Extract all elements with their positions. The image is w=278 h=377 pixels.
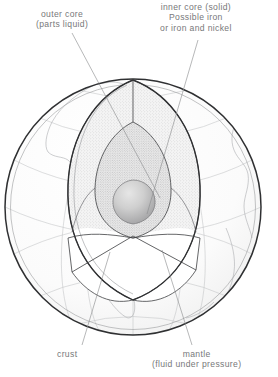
- label-outer-core-line2: (parts liquid): [36, 19, 88, 29]
- label-inner-core: inner core (solid) Possible iron or iron…: [160, 2, 232, 33]
- label-outer-core-line1: outer core: [36, 9, 88, 19]
- label-mantle: mantle (fluid under pressure): [152, 349, 241, 370]
- label-crust-line1: crust: [57, 349, 77, 359]
- label-inner-core-line2: Possible iron: [160, 12, 232, 22]
- earth-cutaway-diagram: [0, 0, 278, 377]
- label-crust: crust: [57, 349, 77, 359]
- label-outer-core: outer core (parts liquid): [36, 9, 88, 30]
- label-inner-core-line1: inner core (solid): [160, 2, 232, 12]
- label-mantle-line2: (fluid under pressure): [152, 359, 241, 369]
- label-mantle-line1: mantle: [152, 349, 241, 359]
- label-inner-core-line3: or iron and nickel: [160, 23, 232, 33]
